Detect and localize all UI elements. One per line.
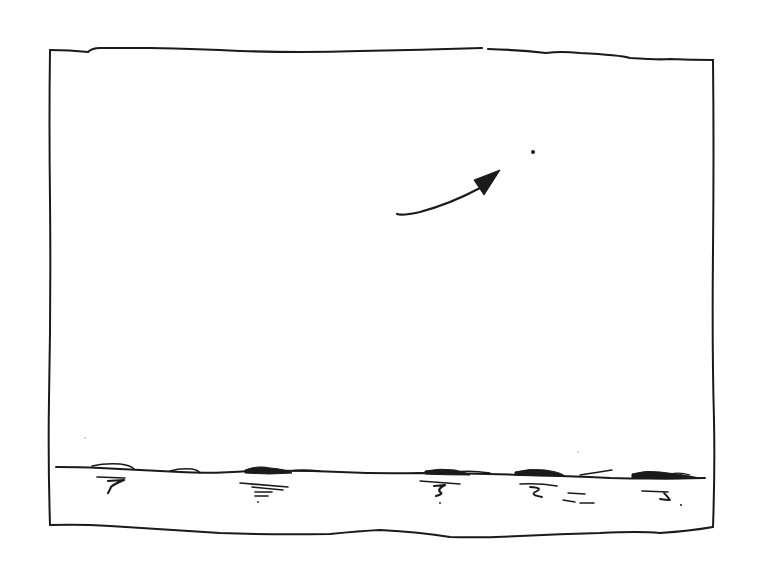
arrow-icon	[397, 170, 500, 215]
sketch-canvas	[0, 0, 760, 566]
sketch-frame	[49, 48, 715, 537]
water-horizon	[56, 464, 705, 479]
target-dot	[531, 150, 535, 154]
water-ripples	[97, 477, 682, 506]
